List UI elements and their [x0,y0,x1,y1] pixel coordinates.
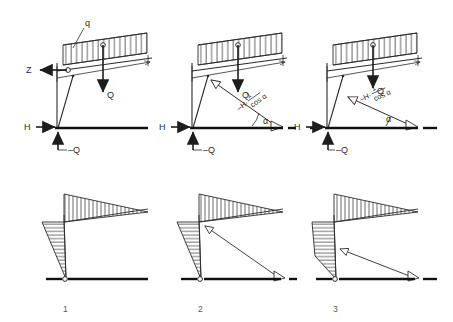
label-minus-Q-3: –Q [336,145,348,155]
engineering-figure: q Z Q H –Q [0,0,453,322]
label-minus-Q-2: –Q [203,145,215,155]
label-q-1: q [85,18,90,28]
label-alpha-3: α [386,114,391,124]
label-z-1: Z [26,65,32,75]
panel-number-3: 3 [333,304,338,314]
label-H-2: H [159,122,166,132]
support-hinge-2 [198,277,203,282]
label-H-1: H [24,122,31,132]
support-hinge-1 [63,277,68,282]
knee-node-1 [72,75,75,78]
knee-node-2 [207,75,210,78]
panel-number-1: 1 [63,304,68,314]
label-Q-1: Q [107,90,114,100]
label-alpha-2: α [263,116,268,126]
knee-node-3 [342,75,345,78]
label-minus-Q-1: –Q [68,145,80,155]
panel-number-2: 2 [198,304,203,314]
label-H-3: H [294,122,301,132]
support-hinge-3 [333,277,338,282]
